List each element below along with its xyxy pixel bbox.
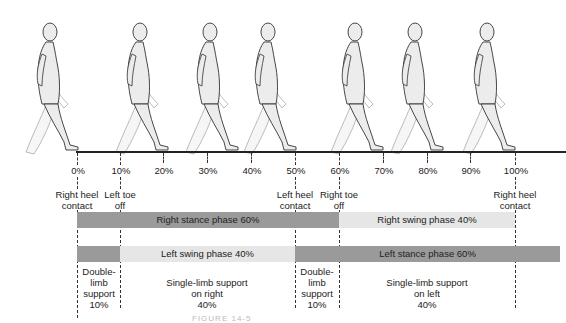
single-limb-support-left: Single-limb support on left 40%	[386, 277, 467, 310]
tick-0	[77, 153, 78, 165]
tick-100	[515, 153, 516, 165]
tick-20	[163, 153, 164, 163]
double-limb-support-2: Double- limb support 10%	[300, 266, 333, 310]
event-line: contact	[277, 200, 313, 211]
pct-label: 90%	[461, 165, 480, 176]
tick-60	[339, 153, 340, 165]
right-swing-bar: Right swing phase 40%	[339, 212, 515, 228]
figure-1	[116, 23, 168, 154]
event-line: contact	[494, 200, 537, 211]
figure-4	[331, 23, 383, 154]
tick-80	[427, 153, 428, 163]
tick-0-lower	[77, 177, 78, 189]
figure-5	[391, 23, 443, 154]
event-line: off	[104, 200, 136, 211]
support-line: Double-	[300, 266, 333, 277]
support-line: Double-	[82, 266, 115, 277]
event-line: Left heel	[277, 189, 313, 200]
ground-line	[76, 151, 566, 153]
support-line: 10%	[82, 299, 115, 310]
double-limb-support-1: Double- limb support 10%	[82, 266, 115, 310]
event-line: Right toe	[320, 189, 358, 200]
event-line: Right heel	[494, 189, 537, 200]
tick-60-lower	[339, 177, 340, 189]
event-left-heel-contact: Left heel contact	[277, 189, 313, 211]
support-line: Single-limb support	[386, 277, 467, 288]
left-stance-bar: Left stance phase 60%	[295, 246, 560, 262]
tick-30	[207, 153, 208, 163]
tick-50-lower	[295, 177, 296, 189]
support-line: Single-limb support	[166, 277, 247, 288]
support-line: limb	[300, 277, 333, 288]
event-left-toe-off: Left toe off	[104, 189, 136, 211]
right-stance-bar: Right stance phase 60%	[77, 212, 339, 228]
support-line: support	[82, 288, 115, 299]
pct-label: 0%	[71, 165, 85, 176]
event-right-heel-contact-end: Right heel contact	[494, 189, 537, 211]
tick-50	[295, 153, 296, 165]
pct-label: 50%	[286, 165, 305, 176]
figure-caption: FIGURE 14-5	[192, 314, 251, 323]
event-line: Right heel	[56, 189, 99, 200]
single-limb-support-right: Single-limb support on right 40%	[166, 277, 247, 310]
event-line: Left toe	[104, 189, 136, 200]
pct-label: 70%	[374, 165, 393, 176]
event-right-heel-contact: Right heel contact	[56, 189, 99, 211]
support-line: on left	[386, 288, 467, 299]
tick-90	[470, 153, 471, 163]
tick-10-lower	[120, 177, 121, 189]
event-line: off	[320, 200, 358, 211]
tick-70	[383, 153, 384, 163]
support-line: 10%	[300, 299, 333, 310]
pct-label: 20%	[154, 165, 173, 176]
figure-2	[186, 23, 238, 154]
support-line: support	[300, 288, 333, 299]
pct-label: 80%	[418, 165, 437, 176]
event-right-toe-off: Right toe off	[320, 189, 358, 211]
support-line: 40%	[386, 299, 467, 310]
pct-label: 100%	[504, 165, 528, 176]
figure-0	[26, 23, 78, 154]
figure-3	[244, 23, 296, 154]
tick-100-lower	[515, 177, 516, 189]
event-line: contact	[56, 200, 99, 211]
support-line: limb	[82, 277, 115, 288]
figure-6	[463, 23, 515, 154]
pct-label: 10%	[111, 165, 130, 176]
support-line: 40%	[166, 299, 247, 310]
pct-label: 40%	[242, 165, 261, 176]
left-stance-bar-start	[77, 246, 120, 262]
tick-10	[120, 153, 121, 165]
tick-40	[251, 153, 252, 163]
left-swing-bar: Left swing phase 40%	[120, 246, 295, 262]
support-line: on right	[166, 288, 247, 299]
walking-figures	[0, 0, 566, 155]
pct-label: 60%	[330, 165, 349, 176]
pct-label: 30%	[198, 165, 217, 176]
